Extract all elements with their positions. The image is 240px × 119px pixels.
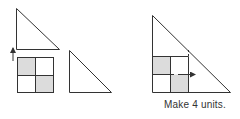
top-triangle [17, 9, 60, 50]
large-triangle [153, 16, 231, 93]
grid-cell-shaded [170, 75, 188, 93]
right-figure [153, 16, 231, 93]
grid-cell-shaded [18, 58, 36, 76]
side-triangle [70, 51, 112, 93]
unit-grid-left [18, 58, 54, 93]
grid-cell-shaded [153, 57, 171, 75]
left-figure [13, 9, 112, 93]
caption: Make 4 units. [150, 99, 240, 110]
grid-cell-shaded [35, 75, 53, 93]
